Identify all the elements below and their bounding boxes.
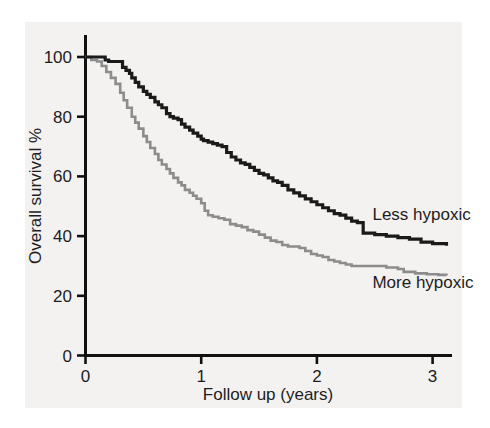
survival-curve-figure: 020406080100 0123 Less hypoxic More hypo…: [0, 0, 490, 428]
x-tick-label: 3: [428, 367, 437, 386]
y-tick-label: 40: [53, 227, 72, 246]
x-axis-title: Follow up (years): [203, 385, 333, 404]
series-label-less-hypoxic: Less hypoxic: [372, 205, 471, 224]
x-axis-tick-labels: 0123: [81, 367, 438, 386]
y-tick-label: 80: [53, 108, 72, 127]
y-tick-label: 60: [53, 167, 72, 186]
more-hypoxic-curve: [86, 57, 447, 276]
y-tick-label: 20: [53, 287, 72, 306]
x-tick-label: 0: [81, 367, 90, 386]
x-tick-label: 1: [196, 367, 205, 386]
survival-chart: 020406080100 0123 Less hypoxic More hypo…: [0, 0, 490, 428]
series-label-more-hypoxic: More hypoxic: [372, 273, 474, 292]
y-tick-label: 0: [63, 347, 72, 366]
y-axis-title: Overall survival %: [26, 128, 45, 264]
x-tick-label: 2: [312, 367, 321, 386]
y-axis-tick-labels: 020406080100: [44, 48, 72, 366]
y-tick-label: 100: [44, 48, 72, 67]
